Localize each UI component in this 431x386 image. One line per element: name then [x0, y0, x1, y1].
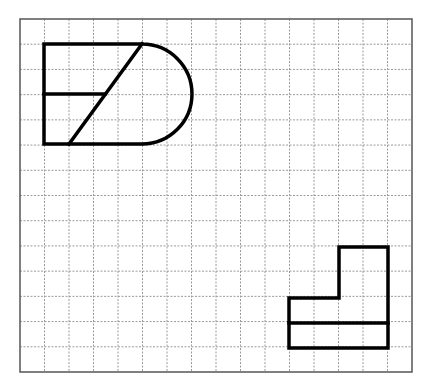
l-shape: [289, 247, 388, 348]
grid-diagram: [0, 0, 431, 386]
grid-lines: [20, 19, 412, 372]
shape-outline: [289, 247, 388, 348]
